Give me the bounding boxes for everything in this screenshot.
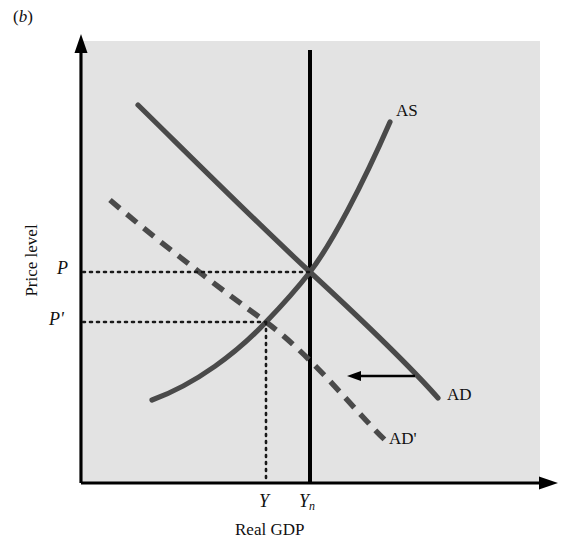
x-tick-label-yn-subscript: n <box>309 499 315 513</box>
ad-as-diagram-figure: (b) AS AD AD' P P' Y Yn Real GDP Price l… <box>0 0 569 546</box>
panel-label: (b) <box>13 8 33 25</box>
ad-curve-label: AD <box>447 386 472 403</box>
plot-canvas <box>0 0 569 546</box>
x-tick-label-y: Y <box>259 492 269 510</box>
as-curve-label: AS <box>396 102 418 119</box>
y-axis-title: Price level <box>23 201 40 321</box>
y-tick-label-p: P <box>57 259 68 277</box>
x-axis-title: Real GDP <box>235 521 304 538</box>
x-tick-label-yn: Yn <box>299 492 315 510</box>
y-tick-label-p-prime: P' <box>49 310 64 328</box>
x-tick-label-yn-base: Y <box>299 491 309 511</box>
ad-prime-curve-label: AD' <box>389 430 417 447</box>
